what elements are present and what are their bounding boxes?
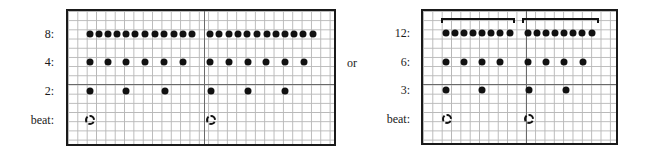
pulse-dot [443,59,450,66]
pulse-dot [142,31,149,38]
row-label-4: 4: [0,55,54,69]
pulse-dot [226,31,233,38]
grid-divider [68,84,334,85]
pulse-dot [461,30,468,37]
pulse-dot [479,87,486,94]
pulse-dot [301,59,308,66]
pulse-dot [461,59,468,66]
row-label-beat: beat: [350,112,410,126]
pulse-dot [180,31,187,38]
pulse-dot [132,31,139,38]
pulse-dot [561,59,568,66]
pulse-dot [245,88,252,95]
pulse-dot [264,31,271,38]
pulse-dot [105,31,112,38]
pulse-dot [507,30,514,37]
pulse-dot [488,30,495,37]
pulse-dot [561,30,568,37]
row-label-2: 2: [0,84,54,98]
right-grid-panel [421,9,618,145]
pulse-dot [282,88,289,95]
grid-divider [423,84,616,85]
pulse-dot [207,31,214,38]
pulse-dot [87,31,94,38]
pulse-dot [235,31,242,38]
pulse-dot [291,31,298,38]
grouping-bracket [441,18,515,23]
grid-divider [204,11,205,144]
beat-marker-icon [85,115,95,125]
pulse-dot [552,30,559,37]
pulse-dot [282,59,289,66]
pulse-dot [497,30,504,37]
beat-marker-icon [524,114,534,124]
pulse-dot [105,59,112,66]
pulse-dot [479,30,486,37]
pulse-dot [87,88,94,95]
pulse-dot [563,87,570,94]
pulse-dot [245,59,252,66]
pulse-dot [282,31,289,38]
pulse-dot [123,88,130,95]
pulse-dot [543,30,550,37]
pulse-dot [180,59,187,66]
row-label-beat: beat: [0,113,54,127]
row-label-12: 12: [350,26,410,40]
pulse-dot [310,31,317,38]
pulse-dot [300,31,307,38]
row-label-8: 8: [0,27,54,41]
pulse-dot [152,31,159,38]
pulse-dot [525,59,532,66]
pulse-dot [579,30,586,37]
pulse-dot [443,87,450,94]
pulse-dot [543,59,550,66]
pulse-dot [142,59,149,66]
row-label-6: 6: [350,55,410,69]
pulse-dot [254,31,261,38]
row-label-3: 3: [350,83,410,97]
pulse-dot [244,31,251,38]
pulse-dot [207,59,214,66]
pulse-dot [123,31,130,38]
pulse-dot [479,59,486,66]
pulse-dot [273,31,280,38]
beat-marker-icon [206,115,216,125]
pulse-dot [161,31,168,38]
pulse-dot [161,59,168,66]
pulse-dot [589,30,596,37]
pulse-dot [263,59,270,66]
pulse-dot [114,31,121,38]
pulse-dot [534,30,541,37]
pulse-dot [497,59,504,66]
pulse-dot [525,30,532,37]
beat-marker-icon [442,114,452,124]
pulse-dot [123,59,130,66]
pulse-dot [226,59,233,66]
pulse-dot [443,30,450,37]
pulse-dot [87,59,94,66]
pulse-dot [580,59,587,66]
pulse-dot [189,31,196,38]
pulse-dot [96,31,103,38]
pulse-dot [171,31,178,38]
grouping-bracket [522,18,599,23]
pulse-dot [470,30,477,37]
pulse-dot [208,88,215,95]
pulse-dot [452,30,459,37]
pulse-dot [216,31,223,38]
pulse-dot [526,87,533,94]
pulse-dot [570,30,577,37]
pulse-dot [162,88,169,95]
